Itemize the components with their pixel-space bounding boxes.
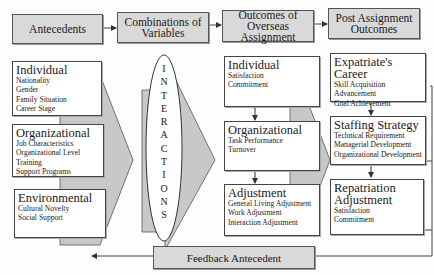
box-item: Work Adjustment (228, 208, 316, 217)
feedback-antecedent-box: Feedback Antecedent (153, 246, 315, 269)
box-title: Individual (228, 59, 316, 71)
box-item: Commitment (334, 215, 420, 224)
feedback-label: Feedback Antecedent (187, 252, 281, 264)
post-staffing-box: Staffing Strategy Technical Requirement … (330, 116, 426, 165)
box-item: Skill Acquisition (334, 80, 422, 89)
header-label: Outcomes of Overseas Assignment (223, 10, 313, 43)
letter: R (150, 115, 178, 128)
antecedent-individual-box: Individual Nationality Gender Family Sit… (12, 61, 102, 116)
box-item: Interaction Adjustment (228, 218, 316, 227)
header-post-outcomes: Post Assignment Outcomes (328, 8, 420, 39)
box-item: Advancement (334, 89, 422, 98)
box-item: Career Stage (16, 104, 98, 113)
box-item: Job Characteristics (16, 139, 100, 148)
letter: C (150, 142, 178, 155)
box-title: Adjustment (228, 187, 316, 199)
box-title: Organizational (228, 124, 316, 136)
letter: N (150, 195, 178, 208)
box-item: Organizational Development (334, 150, 422, 159)
post-career-box: Expatriate's Career Skill Acquisition Ad… (330, 53, 426, 102)
interactions-label: I N T E R A C T I O N S (150, 62, 178, 222)
outcome-organizational-box: Organizational Task Performance Turnover (224, 121, 320, 171)
box-item: Organizational Level (16, 148, 100, 157)
letter: I (150, 168, 178, 181)
outcome-adjustment-box: Adjustment General Living Adjustment Wor… (224, 184, 320, 236)
box-item: Social Support (18, 213, 102, 222)
box-item: Goal Achievement (334, 99, 422, 108)
header-combinations: Combinations of Variables (117, 12, 209, 43)
box-item: Task Performance (228, 136, 316, 145)
antecedent-environmental-box: Environmental Cultural Novelty Social Su… (14, 189, 106, 238)
antecedent-organizational-box: Organizational Job Characteristics Organ… (12, 124, 104, 177)
post-repatriation-box: Repatriation Adjustment Satisfaction Com… (330, 179, 424, 235)
letter: T (150, 155, 178, 168)
letter: I (150, 62, 178, 75)
box-title: Individual (16, 64, 98, 76)
box-item: Satisfaction (228, 71, 316, 80)
box-item: Commitment (228, 80, 316, 89)
box-title: Repatriation Adjustment (334, 182, 404, 206)
header-outcomes: Outcomes of Overseas Assignment (222, 10, 314, 42)
box-item: Nationality (16, 76, 98, 85)
box-item: Training (16, 158, 100, 167)
letter: E (150, 102, 178, 115)
header-label: Antecedents (29, 24, 86, 35)
letter: N (150, 75, 178, 88)
box-item: Family Situation (16, 95, 98, 104)
box-title: Environmental (18, 192, 102, 204)
box-item: Satisfaction (334, 206, 420, 215)
expatriate-assignment-model-diagram: Antecedents Combinations of Variables Ou… (0, 0, 434, 275)
box-item: General Living Adjustment (228, 199, 316, 208)
header-antecedents: Antecedents (12, 14, 103, 44)
box-item: Managerial Development (334, 140, 422, 149)
outcome-individual-box: Individual Satisfaction Commitment (224, 56, 320, 107)
box-item: Gender (16, 85, 98, 94)
letter: T (150, 89, 178, 102)
header-label: Combinations of Variables (118, 17, 208, 39)
box-title: Organizational (16, 127, 100, 139)
box-item: Turnover (228, 145, 316, 154)
letter: O (150, 182, 178, 195)
box-item: Technical Requirement (334, 131, 422, 140)
letter: A (150, 128, 178, 141)
letter: S (150, 208, 178, 221)
box-item: Cultural Novelty (18, 204, 102, 213)
box-item: Support Programs (16, 167, 100, 176)
header-label: Post Assignment Outcomes (329, 13, 419, 35)
box-title: Staffing Strategy (334, 119, 422, 131)
box-title: Expatriate's Career (334, 56, 422, 80)
